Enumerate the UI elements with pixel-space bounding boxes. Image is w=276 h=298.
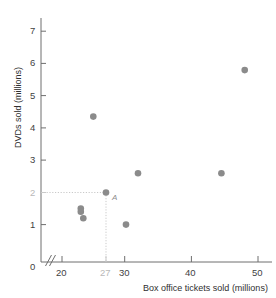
y-tick-label-2: 2	[30, 188, 35, 198]
y-tick-label-6: 6	[30, 58, 35, 68]
x-tick-label-30: 30	[119, 268, 130, 278]
data-point-a	[103, 189, 110, 196]
data-point	[90, 113, 97, 120]
data-points	[78, 67, 249, 228]
origin-label: 0	[30, 262, 35, 272]
highlight-guides	[41, 193, 106, 263]
x-axis-ticks	[62, 256, 258, 262]
data-point	[78, 209, 85, 216]
y-axis-title: DVDs sold (millions)	[14, 67, 23, 148]
data-point	[135, 170, 142, 177]
x-tick-label-40: 40	[185, 268, 196, 278]
data-point	[123, 221, 130, 228]
plot-area	[0, 0, 276, 298]
data-point	[80, 215, 87, 222]
data-point	[218, 170, 225, 177]
data-point	[241, 67, 248, 74]
x-axis-title: Box office tickets sold (millions)	[143, 284, 268, 293]
y-tick-label-7: 7	[30, 26, 35, 36]
y-tick-label-3: 3	[30, 155, 35, 165]
y-tick-label-5: 5	[30, 91, 35, 101]
x-tick-label-20: 20	[56, 268, 67, 278]
y-tick-label-1: 1	[30, 220, 35, 230]
x-tick-label-50: 50	[252, 268, 263, 278]
axis-break-marks	[46, 255, 56, 266]
y-tick-label-4: 4	[30, 123, 35, 133]
point-a-label: A	[112, 194, 117, 202]
scatter-chart: 7 6 5 4 3 2 1 0 20 27 30 40 50 A DVDs so…	[0, 0, 276, 298]
y-axis-ticks	[41, 31, 46, 224]
x-tick-label-27: 27	[100, 268, 111, 278]
